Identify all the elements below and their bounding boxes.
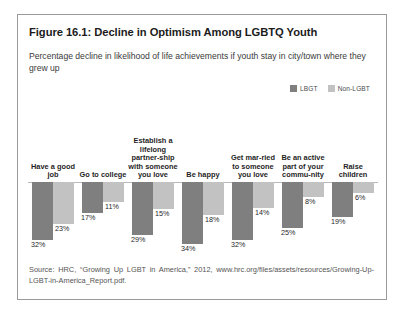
bar-value-label: 29% <box>131 236 145 244</box>
bar-group-label: Be an active part of your commu-nity <box>278 154 328 180</box>
legend-swatch-non-lgbt <box>328 85 335 92</box>
bar-lbgt: 32% <box>232 182 253 240</box>
bar-pair: 19%6% <box>328 182 378 252</box>
bar-value-label: 18% <box>205 216 219 224</box>
bar-value-label: 6% <box>355 194 365 202</box>
bar-non-lgbt: 15% <box>153 182 174 209</box>
bar-pair: 17%11% <box>78 182 128 252</box>
legend-label-lbgt: LBGT <box>300 85 318 92</box>
bar-non-lgbt: 14% <box>253 182 274 208</box>
bar-non-lgbt: 18% <box>203 182 224 215</box>
bar-rect <box>132 182 153 235</box>
bar-group: Raise children19%6% <box>328 97 378 252</box>
legend-entry-non-lgbt: Non-LGBT <box>328 85 370 92</box>
bar-value-label: 25% <box>281 229 295 237</box>
bar-value-label: 19% <box>331 218 345 226</box>
bar-group: Go to college17%11% <box>78 97 128 252</box>
bar-lbgt: 25% <box>282 182 303 228</box>
bar-chart-plot: Have a good job32%23%Go to college17%11%… <box>28 97 378 252</box>
bar-group-label: Have a good job <box>28 163 78 180</box>
bar-value-label: 11% <box>105 203 119 211</box>
bar-non-lgbt: 8% <box>303 182 324 197</box>
bar-pair: 32%23% <box>28 182 78 252</box>
bar-lbgt: 19% <box>332 182 353 217</box>
bar-group: Get mar-ried to someone you love32%14% <box>228 97 278 252</box>
bar-group-label: Establish a lifelong partner-ship with s… <box>128 137 178 180</box>
bar-lbgt: 29% <box>132 182 153 235</box>
bar-rect <box>153 182 174 209</box>
bar-non-lgbt: 23% <box>53 182 74 224</box>
bar-rect <box>353 182 374 193</box>
bar-rect <box>232 182 253 240</box>
bar-value-label: 32% <box>31 241 45 249</box>
bar-value-label: 8% <box>305 198 315 206</box>
figure-card: Figure 16.1: Decline in Optimism Among L… <box>17 14 387 300</box>
bar-group-label: Go to college <box>78 171 128 180</box>
bar-group: Establish a lifelong partner-ship with s… <box>128 97 178 252</box>
chart-legend: LBGT Non-LGBT <box>290 85 370 92</box>
bar-value-label: 15% <box>155 210 169 218</box>
bar-pair: 34%18% <box>178 182 228 252</box>
bar-rect <box>53 182 74 224</box>
page-title: Figure 16.1: Decline in Optimism Among L… <box>29 26 374 39</box>
bar-rect <box>282 182 303 228</box>
bar-group: Have a good job32%23% <box>28 97 78 252</box>
bar-value-label: 23% <box>55 225 69 233</box>
bar-non-lgbt: 6% <box>353 182 374 193</box>
bar-rect <box>303 182 324 197</box>
bar-lbgt: 17% <box>82 182 103 213</box>
bar-lbgt: 34% <box>182 182 203 244</box>
bar-rect <box>332 182 353 217</box>
bar-pair: 32%14% <box>228 182 278 252</box>
bar-rect <box>182 182 203 244</box>
bar-value-label: 14% <box>255 209 269 217</box>
figure-subtitle: Percentage decline in likelihood of life… <box>29 50 371 74</box>
bar-group-label: Raise children <box>328 163 378 180</box>
legend-swatch-lbgt <box>290 85 297 92</box>
legend-entry-lbgt: LBGT <box>290 85 318 92</box>
bar-value-label: 32% <box>231 241 245 249</box>
bar-group-label: Be happy <box>178 171 228 180</box>
bar-group-label: Get mar-ried to someone you love <box>228 154 278 180</box>
bar-group: Be an active part of your commu-nity25%8… <box>278 97 328 252</box>
bar-pair: 25%8% <box>278 182 328 252</box>
bar-value-label: 34% <box>181 245 195 253</box>
legend-label-non-lgbt: Non-LGBT <box>338 85 370 92</box>
bar-rect <box>203 182 224 215</box>
bar-rect <box>82 182 103 213</box>
bar-rect <box>253 182 274 208</box>
bar-group: Be happy34%18% <box>178 97 228 252</box>
figure-source: Source: HRC, “Growing Up LGBT in America… <box>29 265 374 286</box>
bar-non-lgbt: 11% <box>103 182 124 202</box>
bar-value-label: 17% <box>81 214 95 222</box>
bar-rect <box>103 182 124 202</box>
bar-lbgt: 32% <box>32 182 53 240</box>
bar-rect <box>32 182 53 240</box>
bar-pair: 29%15% <box>128 182 178 252</box>
